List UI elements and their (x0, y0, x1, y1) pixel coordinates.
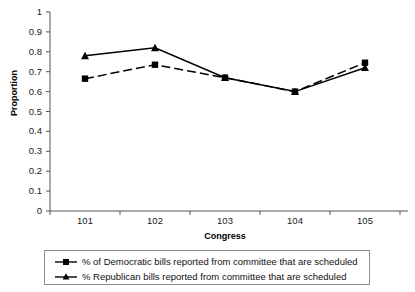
legend-item-democratic: % of Democratic bills reported from comm… (54, 254, 369, 269)
legend-label-republican: % Republican bills reported from committ… (82, 271, 347, 283)
chart-legend: % of Democratic bills reported from comm… (44, 250, 370, 285)
square-marker-icon (54, 256, 78, 268)
data-point-square (152, 62, 158, 68)
triangle-marker-icon (54, 271, 78, 283)
plot-area (0, 0, 415, 292)
data-point-square (82, 75, 88, 81)
chart-figure: Proportion 10.90.80.70.60.50.40.30.20.10… (0, 0, 415, 292)
legend-item-republican: % Republican bills reported from committ… (54, 269, 369, 284)
legend-label-democratic: % of Democratic bills reported from comm… (82, 256, 358, 268)
